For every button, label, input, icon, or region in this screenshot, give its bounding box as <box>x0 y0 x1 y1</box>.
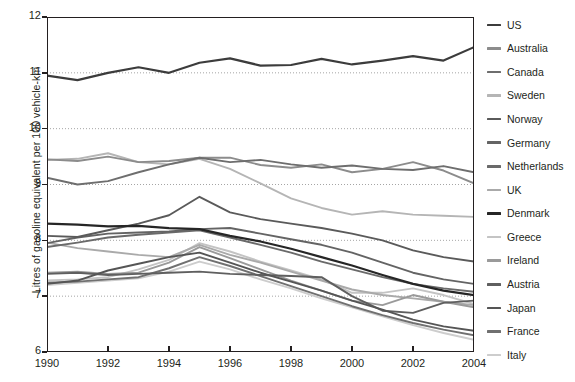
legend-color-swatch <box>487 189 501 192</box>
legend-item-label: Ireland <box>507 255 539 266</box>
legend-color-swatch <box>487 236 501 239</box>
legend-item-label: Italy <box>507 350 526 361</box>
legend-item-canada[interactable]: Canada <box>487 60 575 84</box>
legend-item-germany[interactable]: Germany <box>487 131 575 155</box>
y-axis-tick-label: 9 <box>1 177 41 189</box>
x-axis-tick-label: 2000 <box>322 357 382 369</box>
legend-item-label: Germany <box>507 138 550 149</box>
x-axis-tick-label: 1990 <box>17 357 77 369</box>
legend-item-us[interactable]: US <box>487 13 575 37</box>
legend-item-label: France <box>507 326 540 337</box>
y-axis-tick-label: 6 <box>1 344 41 356</box>
legend-item-denmark[interactable]: Denmark <box>487 202 575 226</box>
legend-item-australia[interactable]: Australia <box>487 37 575 61</box>
legend-item-austria[interactable]: Austria <box>487 273 575 297</box>
legend-item-label: Japan <box>507 303 536 314</box>
y-axis-tick-label: 8 <box>1 232 41 244</box>
legend-color-swatch <box>487 141 501 144</box>
legend-item-label: Australia <box>507 43 548 54</box>
legend-item-uk[interactable]: UK <box>487 178 575 202</box>
legend-color-swatch <box>487 259 501 262</box>
plot-frame <box>47 17 474 352</box>
legend-color-swatch <box>487 283 501 286</box>
legend-color-swatch <box>487 212 501 215</box>
legend-color-swatch <box>487 94 501 97</box>
legend-color-swatch <box>487 24 501 27</box>
legend-item-label: Greece <box>507 232 541 243</box>
y-axis-tick-label: 10 <box>1 121 41 133</box>
chart-container: Litres of gasoline equivalent per 100 ve… <box>0 0 575 382</box>
legend-item-greece[interactable]: Greece <box>487 225 575 249</box>
legend-item-italy[interactable]: Italy <box>487 343 575 367</box>
legend-color-swatch <box>487 47 501 50</box>
legend-item-ireland[interactable]: Ireland <box>487 249 575 273</box>
legend-color-swatch <box>487 118 501 121</box>
chart-legend: USAustraliaCanadaSwedenNorwayGermanyNeth… <box>487 13 575 367</box>
legend-item-label: Austria <box>507 279 540 290</box>
legend-item-label: Norway <box>507 114 543 125</box>
legend-item-sweden[interactable]: Sweden <box>487 84 575 108</box>
legend-item-norway[interactable]: Norway <box>487 107 575 131</box>
x-axis-tick-label: 1992 <box>78 357 138 369</box>
x-axis-tick-label: 1998 <box>261 357 321 369</box>
legend-color-swatch <box>487 71 501 74</box>
legend-color-swatch <box>487 165 501 168</box>
plot-area <box>47 17 474 352</box>
legend-item-france[interactable]: France <box>487 320 575 344</box>
x-axis-tick-label: 1996 <box>200 357 260 369</box>
legend-color-swatch <box>487 330 501 333</box>
x-axis-tick-label: 1994 <box>139 357 199 369</box>
legend-item-label: Denmark <box>507 208 550 219</box>
legend-item-japan[interactable]: Japan <box>487 296 575 320</box>
legend-item-label: Sweden <box>507 90 545 101</box>
y-axis-tick-label: 11 <box>1 65 41 77</box>
legend-item-netherlands[interactable]: Netherlands <box>487 155 575 179</box>
legend-item-label: US <box>507 20 522 31</box>
legend-item-label: Netherlands <box>507 161 564 172</box>
legend-color-swatch <box>487 354 501 357</box>
legend-item-label: UK <box>507 185 522 196</box>
legend-color-swatch <box>487 307 501 310</box>
x-axis-tick-label: 2002 <box>383 357 443 369</box>
y-axis-tick-label: 7 <box>1 288 41 300</box>
y-axis-tick-label: 12 <box>1 9 41 21</box>
legend-item-label: Canada <box>507 67 544 78</box>
